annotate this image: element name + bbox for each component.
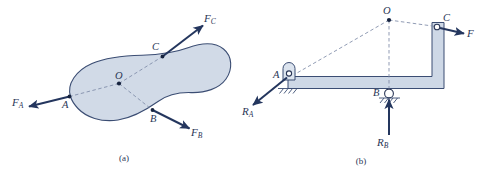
force-vector-FB	[153, 110, 190, 129]
point-O-marker-a	[117, 81, 121, 85]
force-label-FA-sub: A	[18, 101, 24, 110]
bent-member-shape	[288, 23, 444, 89]
force-label-FB-sub: B	[198, 131, 203, 140]
point-label-O-b: O	[383, 5, 391, 16]
force-label-RB-sub: B	[384, 141, 389, 150]
force-label-RA-sub: A	[248, 110, 254, 119]
point-label-C-b: C	[443, 12, 451, 23]
hatching-A	[280, 89, 298, 94]
point-O-marker-b	[387, 18, 391, 22]
dashed-line-O-C-b	[389, 20, 436, 27]
caption-b: (b)	[356, 156, 367, 166]
figure-container: O A B C FA FC FB (a)	[0, 0, 483, 177]
pin-A-icon	[286, 71, 291, 76]
point-B-marker-a	[151, 108, 155, 112]
panel-a: O A B C FA FC FB (a)	[11, 12, 231, 163]
force-label-FA: FA	[11, 96, 24, 110]
point-C-marker-a	[161, 55, 165, 59]
panel-b: O A B C F RA RB (b)	[241, 5, 474, 166]
force-label-FC-sub: C	[211, 17, 217, 26]
point-label-A-b: A	[272, 69, 280, 80]
point-label-B-b: B	[373, 87, 380, 98]
rigid-body-shape	[70, 44, 231, 121]
point-label-O-a: O	[115, 70, 123, 81]
force-label-FB: FB	[190, 126, 203, 140]
force-label-F: F	[466, 27, 474, 39]
figure-svg: O A B C FA FC FB (a)	[0, 0, 483, 177]
force-label-RB: RB	[376, 136, 389, 150]
force-vector-RA	[253, 78, 287, 106]
force-label-RA: RA	[241, 105, 254, 119]
point-A-marker-a	[68, 95, 72, 99]
point-label-A-a: A	[61, 99, 69, 110]
point-label-B-a: B	[150, 113, 157, 124]
pin-C-icon	[434, 24, 440, 30]
roller-B-icon	[385, 89, 394, 98]
point-label-C-a: C	[152, 41, 160, 52]
dashed-line-O-A-b	[290, 20, 389, 77]
force-label-FC: FC	[203, 12, 217, 26]
caption-a: (a)	[119, 153, 129, 163]
